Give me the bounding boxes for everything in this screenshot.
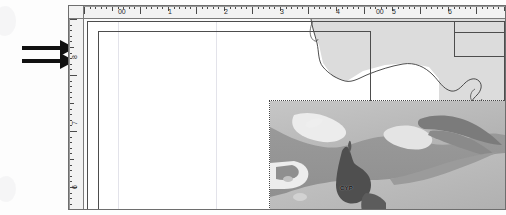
ruler-tick: [174, 7, 175, 9]
application-window: 0012340056 876: [68, 5, 506, 210]
ruler-tick: [314, 7, 315, 9]
ruler-label: 00: [118, 8, 125, 15]
ruler-tick: [70, 19, 77, 20]
ruler-tick: [70, 41, 72, 42]
ruler-tick: [70, 142, 72, 143]
ruler-tick: [235, 7, 236, 9]
ruler-tick: [319, 7, 320, 9]
ruler-label: 00: [376, 8, 383, 15]
relief-image-layer[interactable]: CYP: [270, 101, 505, 209]
ruler-tick: [202, 7, 203, 9]
ruler-tick: [398, 7, 399, 9]
ruler-corner-box: [69, 6, 84, 19]
ruler-tick: [70, 153, 72, 154]
ruler-tick: [246, 7, 247, 9]
ruler-tick: [498, 7, 499, 9]
ruler-tick: [70, 193, 72, 194]
ruler-tick: [129, 7, 130, 9]
ruler-tick: [70, 47, 74, 48]
ruler-tick: [70, 176, 72, 177]
ruler-tick: [342, 7, 343, 9]
ruler-tick: [70, 204, 72, 205]
ruler-tick: [70, 198, 72, 199]
ruler-label: 6: [71, 185, 78, 189]
ruler-tick: [70, 148, 72, 149]
relief-image: [270, 101, 505, 209]
ruler-tick: [140, 7, 141, 14]
ruler-tick: [70, 86, 72, 87]
ruler-tick: [454, 7, 455, 9]
ruler-tick: [470, 7, 471, 9]
ruler-tick: [308, 7, 309, 14]
scan-artifact: [0, 176, 16, 202]
ruler-tick: [151, 7, 152, 9]
ruler-tick: [459, 7, 460, 9]
ruler-tick: [95, 7, 96, 9]
ruler-tick: [465, 7, 466, 9]
ruler-label: 7: [71, 121, 78, 125]
cyp-annotation-label: CYP: [340, 185, 353, 191]
ruler-tick: [431, 7, 432, 9]
ruler-tick: [426, 7, 427, 9]
ruler-tick: [370, 7, 371, 9]
ruler-tick: [70, 170, 72, 171]
ruler-tick: [70, 181, 72, 182]
ruler-tick: [353, 7, 354, 9]
ruler-tick: [70, 36, 72, 37]
ruler-label: 1: [168, 8, 172, 15]
ruler-tick: [70, 125, 72, 126]
ruler-tick: [263, 7, 264, 9]
ruler-tick: [162, 7, 163, 9]
ruler-tick: [70, 109, 72, 110]
ruler-tick: [414, 7, 415, 9]
ruler-tick: [70, 25, 72, 26]
ruler-tick: [70, 131, 77, 132]
ruler-tick: [70, 92, 72, 93]
ruler-tick: [493, 7, 494, 9]
ruler-tick: [70, 81, 72, 82]
ruler-tick: [179, 7, 180, 9]
ruler-tick: [101, 7, 102, 9]
ruler-tick: [252, 7, 253, 14]
ruler-tick: [258, 7, 259, 9]
ruler-tick: [241, 7, 242, 9]
ruler-tick: [347, 7, 348, 9]
ruler-tick: [286, 7, 287, 9]
ruler-tick: [70, 97, 72, 98]
layout-canvas[interactable]: CYP: [84, 19, 505, 209]
ruler-tick: [70, 114, 72, 115]
ruler-tick: [364, 7, 365, 14]
ruler-tick: [70, 75, 77, 76]
ruler-tick: [106, 7, 107, 9]
ruler-tick: [112, 7, 113, 11]
ruler-tick: [134, 7, 135, 9]
ruler-tick: [291, 7, 292, 9]
ruler-tick: [358, 7, 359, 9]
screenshot-root: 0012340056 876: [0, 0, 506, 215]
ruler-tick: [269, 7, 270, 9]
ruler-tick: [70, 64, 72, 65]
ruler-label: 8: [71, 55, 78, 59]
ruler-tick: [482, 7, 483, 9]
ruler-tick: [504, 7, 505, 11]
ruler-label: 4: [336, 8, 340, 15]
ruler-tick: [146, 7, 147, 9]
ruler-tick: [403, 7, 404, 9]
ruler-label: 3: [280, 8, 284, 15]
ruler-tick: [207, 7, 208, 9]
ruler-label: 5: [392, 8, 396, 15]
horizontal-ruler[interactable]: 0012340056: [84, 6, 505, 19]
ruler-tick: [70, 103, 74, 104]
vertical-ruler[interactable]: 876: [69, 19, 84, 209]
ruler-tick: [487, 7, 488, 9]
ruler-tick: [274, 7, 275, 9]
ruler-tick: [302, 7, 303, 9]
ruler-tick: [84, 7, 85, 14]
ruler-tick: [386, 7, 387, 9]
ruler-tick: [70, 53, 72, 54]
ruler-tick: [218, 7, 219, 9]
ruler-tick: [330, 7, 331, 9]
ruler-tick: [185, 7, 186, 9]
ruler-tick: [157, 7, 158, 9]
ruler-tick: [325, 7, 326, 9]
